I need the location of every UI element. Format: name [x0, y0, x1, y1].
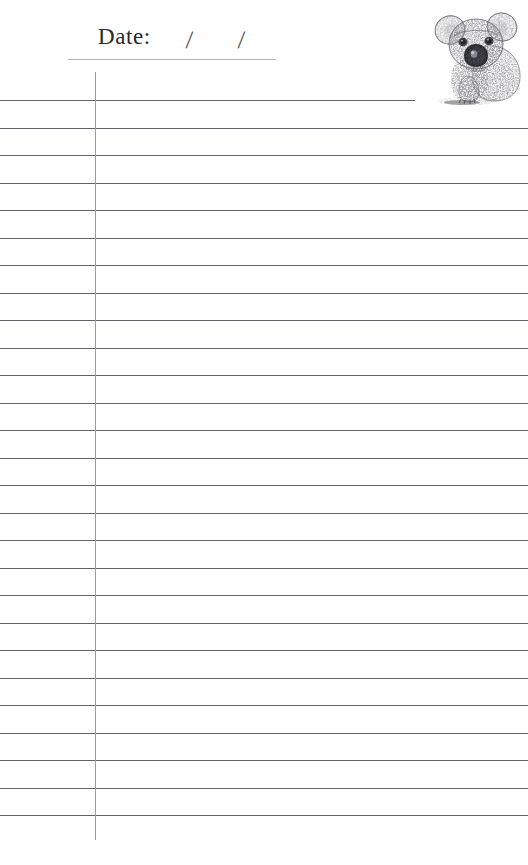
date-separator-slash: / — [237, 26, 245, 54]
rule-line — [0, 320, 528, 321]
rule-line — [0, 100, 415, 101]
rule-line — [0, 623, 528, 624]
rule-line — [0, 375, 528, 376]
date-separator-slash: / — [185, 26, 193, 54]
rule-line — [0, 760, 528, 761]
rule-line — [0, 430, 528, 431]
date-field[interactable]: Date: / / — [68, 24, 278, 64]
rule-line — [0, 485, 528, 486]
rule-line — [0, 128, 528, 129]
rule-line — [0, 650, 528, 651]
date-underline — [68, 59, 276, 60]
margin-rule-line — [95, 72, 96, 840]
rule-line — [0, 595, 528, 596]
date-label: Date: — [98, 24, 151, 50]
rule-line — [0, 210, 528, 211]
rule-line — [0, 513, 528, 514]
rule-line — [0, 458, 528, 459]
rule-line — [0, 348, 528, 349]
rule-line — [0, 183, 528, 184]
rule-line — [0, 568, 528, 569]
rule-line — [0, 403, 528, 404]
rule-line — [0, 293, 528, 294]
rule-line — [0, 815, 528, 816]
rule-line — [0, 788, 528, 789]
koala-body-group — [431, 9, 521, 105]
rule-line — [0, 678, 528, 679]
rule-line — [0, 265, 528, 266]
rule-line — [0, 733, 528, 734]
notepad-page: Date: / / — [0, 0, 528, 865]
koala-icon — [424, 2, 528, 110]
rule-line — [0, 238, 528, 239]
rule-line — [0, 540, 528, 541]
ruled-lines — [0, 0, 528, 865]
rule-line — [0, 155, 528, 156]
rule-line — [0, 705, 528, 706]
